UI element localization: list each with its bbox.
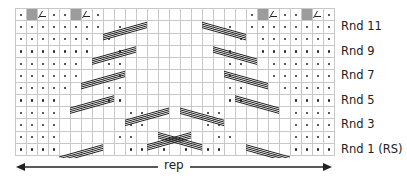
purl-cell (324, 132, 335, 144)
knit-cell (192, 107, 203, 119)
purl-cell (313, 119, 324, 131)
knit-cell (104, 70, 115, 82)
purl-cell (27, 21, 38, 33)
chart-row (15, 83, 335, 95)
knit-cell (60, 95, 71, 107)
knitting-chart-grid (15, 8, 335, 156)
knit-cell (170, 34, 181, 46)
round-label: Rnd 7 (341, 68, 375, 82)
purl-cell (313, 70, 324, 82)
purl-cell (302, 132, 313, 144)
knit-cell (93, 83, 104, 95)
knit-cell (280, 119, 291, 131)
knit-cell (137, 8, 148, 21)
knit-cell (203, 95, 214, 107)
knit-cell (203, 21, 214, 33)
knit-cell (126, 34, 137, 46)
purl-cell (115, 132, 126, 144)
knit-cell (159, 132, 170, 144)
knit-cell (203, 34, 214, 46)
purl-cell (82, 21, 93, 33)
decrease-cell (313, 8, 324, 21)
purl-cell (236, 95, 247, 107)
purl-cell (269, 21, 280, 33)
purl-cell (38, 34, 49, 46)
knit-cell (214, 21, 225, 33)
purl-cell (324, 107, 335, 119)
knit-cell (247, 144, 258, 156)
knit-cell (137, 70, 148, 82)
knit-cell (192, 8, 203, 21)
knit-cell (192, 119, 203, 131)
purl-cell (104, 95, 115, 107)
knit-cell (214, 8, 225, 21)
knit-cell (159, 83, 170, 95)
purl-cell (15, 58, 27, 70)
knit-cell (269, 144, 280, 156)
purl-cell (302, 70, 313, 82)
round-label: Rnd 9 (341, 44, 375, 58)
knit-cell (137, 34, 148, 46)
knit-cell (225, 107, 236, 119)
chart-row (15, 144, 335, 156)
knit-cell (148, 21, 159, 33)
knit-cell (82, 58, 93, 70)
purl-cell (137, 144, 148, 156)
purl-cell (291, 83, 302, 95)
purl-cell (302, 83, 313, 95)
knit-cell (181, 34, 192, 46)
chart-row (15, 95, 335, 107)
knit-cell (280, 107, 291, 119)
purl-cell (324, 70, 335, 82)
purl-cell (38, 107, 49, 119)
knit-cell (170, 95, 181, 107)
knit-cell (137, 95, 148, 107)
purl-cell (258, 21, 269, 33)
purl-cell (324, 58, 335, 70)
knit-cell (148, 132, 159, 144)
purl-cell (324, 95, 335, 107)
knit-cell (60, 107, 71, 119)
knit-cell (170, 70, 181, 82)
knit-cell (269, 107, 280, 119)
knit-cell (82, 119, 93, 131)
purl-cell (302, 144, 313, 156)
knit-cell (236, 70, 247, 82)
purl-cell (247, 21, 258, 33)
knit-cell (214, 70, 225, 82)
purl-cell (324, 119, 335, 131)
knit-cell (258, 95, 269, 107)
knit-cell (159, 107, 170, 119)
no-stitch-cell (302, 8, 313, 21)
purl-cell (60, 8, 71, 21)
purl-cell (15, 83, 27, 95)
knit-cell (203, 132, 214, 144)
purl-cell (291, 8, 302, 21)
knit-cell (192, 58, 203, 70)
knit-cell (181, 119, 192, 131)
purl-cell (126, 119, 137, 131)
purl-cell (214, 132, 225, 144)
knit-cell (115, 34, 126, 46)
purl-cell (60, 83, 71, 95)
knit-cell (181, 21, 192, 33)
purl-cell (258, 46, 269, 58)
purl-cell (38, 144, 49, 156)
purl-cell (38, 119, 49, 131)
purl-cell (269, 46, 280, 58)
purl-cell (115, 58, 126, 70)
knit-cell (258, 119, 269, 131)
knit-cell (126, 70, 137, 82)
purl-cell (324, 8, 335, 21)
knit-cell (159, 46, 170, 58)
knit-cell (126, 46, 137, 58)
purl-cell (115, 46, 126, 58)
purl-cell (291, 21, 302, 33)
knit-cell (214, 95, 225, 107)
knit-cell (159, 8, 170, 21)
decrease-cell (269, 8, 280, 21)
knit-cell (93, 107, 104, 119)
purl-cell (15, 8, 27, 21)
knit-cell (148, 144, 159, 156)
knit-cell (104, 21, 115, 33)
